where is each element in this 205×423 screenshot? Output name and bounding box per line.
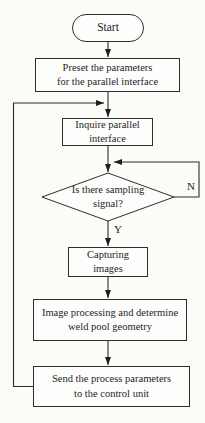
branch-label-yes: Y: [114, 224, 122, 235]
node-send-parameters: Send the process parameters to the contr…: [33, 366, 190, 407]
node-start: Start: [72, 14, 144, 42]
node-capturing-images: Capturing images: [68, 247, 148, 277]
node-inquire-interface: Inquire parallel interface: [62, 118, 153, 146]
node-sampling-decision: Is there sampling signal?: [52, 179, 164, 215]
node-image-processing: Image processing and determine weld pool…: [33, 299, 187, 341]
branch-label-no: N: [187, 181, 195, 192]
flowchart-figure: Start Preset the parameters for the para…: [0, 0, 205, 423]
node-preset-parameters: Preset the parameters for the parallel i…: [35, 58, 180, 92]
